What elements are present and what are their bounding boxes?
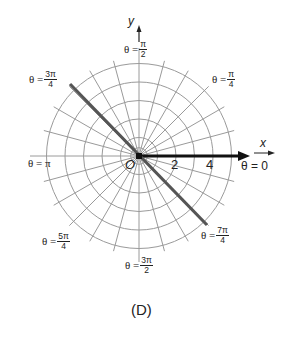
label-theta-5pi-4: θ = 5π4 — [42, 232, 70, 250]
polar-graph-figure: y x θ = π2 θ = π4 θ = 3π4 θ = π θ = 0 θ … — [0, 0, 289, 339]
y-axis-arrowhead — [137, 25, 142, 32]
fraction: 3π4 — [44, 70, 57, 88]
grid-spoke — [139, 71, 188, 156]
grid-spoke — [139, 131, 234, 156]
grid-spoke — [139, 61, 164, 156]
radial-tick-2: 2 — [171, 157, 178, 172]
origin-label: O — [125, 157, 135, 172]
fraction: 7π4 — [216, 226, 229, 244]
fraction: π2 — [139, 40, 147, 58]
x-axis-arrowhead — [268, 151, 275, 156]
label-theta-pi: θ = π — [28, 158, 51, 169]
fraction: π4 — [227, 70, 235, 88]
grid-spoke — [139, 107, 224, 156]
radial-tick-4: 4 — [206, 157, 213, 172]
label-theta-3pi-4: θ = 3π4 — [29, 70, 57, 88]
label-theta-0: θ = 0 — [241, 160, 268, 172]
grid-spoke — [139, 86, 209, 156]
y-axis-label: y — [128, 14, 134, 28]
grid-spoke — [54, 107, 139, 156]
grid-spoke — [44, 131, 139, 156]
fraction: 3π2 — [140, 256, 153, 274]
x-axis-label: x — [260, 136, 266, 150]
fraction: 5π4 — [57, 232, 70, 250]
label-theta-7pi-4: θ = 7π4 — [201, 226, 229, 244]
origin-dot — [136, 153, 142, 159]
label-theta-pi-4: θ = π4 — [212, 70, 235, 88]
label-theta-3pi-2: θ = 3π2 — [125, 256, 153, 274]
label-theta-pi-2: θ = π2 — [124, 40, 147, 58]
figure-caption: (D) — [131, 301, 152, 318]
